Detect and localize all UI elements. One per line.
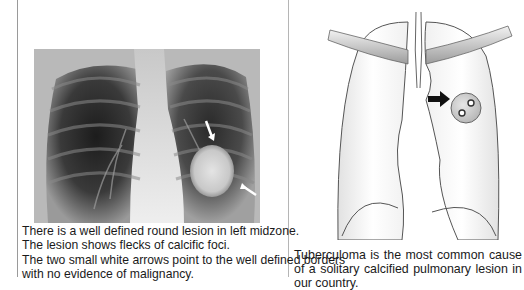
lung-diagram bbox=[290, 0, 524, 240]
caption-line: The lesion shows flecks of calcific foci… bbox=[22, 238, 292, 252]
chest-xray-image bbox=[34, 49, 260, 223]
caption-line: The two small white arrows point to the … bbox=[22, 253, 292, 267]
left-border-line bbox=[17, 0, 18, 277]
caption-line: with no evidence of malignancy. bbox=[22, 267, 292, 281]
caption-line: There is a well defined round lesion in … bbox=[22, 224, 292, 238]
xray-caption: There is a well defined round lesion in … bbox=[22, 224, 292, 282]
diagram-caption: Tuberculoma is the most common cause of … bbox=[294, 248, 522, 290]
